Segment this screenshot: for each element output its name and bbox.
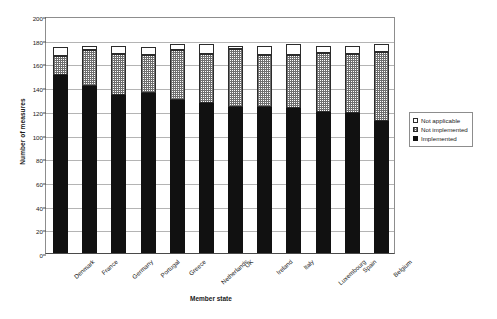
bar-segment-not-implemented xyxy=(170,50,185,100)
bar-segment-implemented xyxy=(316,112,331,253)
x-axis-tick-label: Ireland xyxy=(275,258,294,276)
bar-segment-not-implemented xyxy=(141,55,156,93)
bar-segment-not-implemented xyxy=(374,52,389,122)
bar-segment-implemented xyxy=(170,100,185,253)
bar-segment-not-applicable xyxy=(53,47,68,56)
bar-segment-not-implemented xyxy=(199,54,214,103)
bar-segment-not-applicable xyxy=(82,46,97,51)
x-axis-tick-label: Italy xyxy=(302,258,315,271)
y-axis-tick-label: 120 xyxy=(33,109,43,116)
bar-segment-not-implemented xyxy=(345,54,360,113)
x-axis-tick-label: Germany xyxy=(130,258,154,280)
y-axis-title: Number of measures xyxy=(19,72,26,192)
bar-segment-not-applicable xyxy=(170,44,185,50)
bar-segment-not-applicable xyxy=(374,44,389,51)
bar-segment-implemented xyxy=(257,107,272,253)
legend-swatch-icon xyxy=(413,136,418,141)
bar-segment-implemented xyxy=(228,107,243,253)
bar-segment-not-applicable xyxy=(316,46,331,53)
bar-segment-implemented xyxy=(111,95,126,253)
bar-group xyxy=(345,16,360,253)
bar-segment-not-implemented xyxy=(53,56,68,75)
bar-segment-not-implemented xyxy=(286,55,301,108)
bar-segment-implemented xyxy=(141,93,156,253)
bar-chart: Number of measures 020406080100120140160… xyxy=(0,0,497,319)
bar-segment-not-implemented xyxy=(316,53,331,112)
legend-label: Not implemented xyxy=(421,126,468,133)
bar-group xyxy=(170,16,185,253)
x-axis-tick-label: Belgium xyxy=(392,258,413,278)
x-axis-tick-label: Denmark xyxy=(72,258,95,280)
x-axis-tick-label: Greece xyxy=(187,258,207,277)
bar-group xyxy=(53,16,68,253)
bar-segment-not-implemented xyxy=(111,54,126,95)
bar-segment-implemented xyxy=(345,113,360,253)
bars-layer xyxy=(46,18,394,253)
chart-legend: Not applicableNot implementedImplemented xyxy=(409,112,473,147)
y-axis-tick-label: 60 xyxy=(36,180,43,187)
bar-segment-not-applicable xyxy=(141,47,156,55)
legend-label: Not applicable xyxy=(421,117,460,124)
legend-swatch-icon xyxy=(413,118,418,123)
bar-group xyxy=(228,16,243,253)
x-axis-title: Member state xyxy=(190,295,232,302)
bar-group xyxy=(141,16,156,253)
x-axis-tick-label: Portugal xyxy=(159,258,181,279)
y-axis-tick-mark xyxy=(43,255,46,256)
x-axis-tick-label: France xyxy=(100,258,119,276)
legend-item: Not applicable xyxy=(413,116,468,125)
legend-swatch-icon xyxy=(413,127,418,132)
y-axis-tick-label: 20 xyxy=(36,228,43,235)
bar-segment-not-applicable xyxy=(286,44,301,55)
bar-segment-implemented xyxy=(199,103,214,253)
legend-item: Not implemented xyxy=(413,125,468,134)
bar-segment-implemented xyxy=(286,108,301,253)
bar-group xyxy=(316,16,331,253)
bar-group xyxy=(257,16,272,253)
bar-group xyxy=(82,16,97,253)
y-axis-tick-label: 200 xyxy=(33,15,43,22)
bar-segment-implemented xyxy=(374,121,389,253)
bar-group xyxy=(111,16,126,253)
bar-segment-not-implemented xyxy=(82,50,97,86)
bar-segment-not-implemented xyxy=(257,55,272,107)
bar-group xyxy=(199,16,214,253)
y-axis-tick-label: 140 xyxy=(33,86,43,93)
bar-segment-not-applicable xyxy=(111,46,126,54)
bar-segment-not-applicable xyxy=(345,46,360,54)
legend-item: Implemented xyxy=(413,134,468,143)
bar-segment-not-implemented xyxy=(228,49,243,107)
bar-group xyxy=(374,16,389,253)
y-axis-tick-label: 40 xyxy=(36,204,43,211)
bar-segment-not-applicable xyxy=(257,46,272,55)
bar-segment-not-applicable xyxy=(228,46,243,50)
y-axis-tick-label: 80 xyxy=(36,157,43,164)
bar-segment-not-applicable xyxy=(199,44,214,53)
y-axis-tick-label: 160 xyxy=(33,62,43,69)
bar-segment-implemented xyxy=(53,75,68,253)
bar-group xyxy=(286,16,301,253)
legend-label: Implemented xyxy=(421,135,457,142)
y-axis-tick-label: 100 xyxy=(33,133,43,140)
y-axis-tick-label: 180 xyxy=(33,38,43,45)
x-axis-tick-label: Luxembourg xyxy=(337,258,367,286)
bar-segment-implemented xyxy=(82,86,97,253)
y-axis-tick-label: 0 xyxy=(40,252,43,259)
plot-area: 020406080100120140160180200 xyxy=(45,17,395,254)
